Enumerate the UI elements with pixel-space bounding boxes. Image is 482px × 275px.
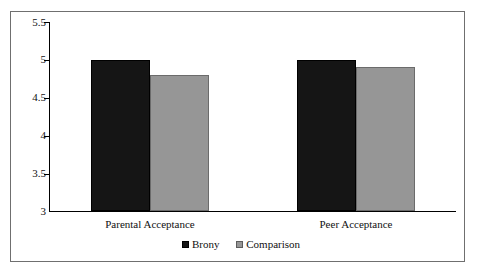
x-axis-category-label-peer-acceptance: Peer Acceptance — [256, 218, 456, 230]
y-axis-tick-label-3-5: 3.5 — [6, 168, 46, 179]
y-axis-tick-label-4: 4 — [6, 130, 46, 141]
bar-comparison-parental-acceptance — [150, 75, 209, 211]
y-axis-tick-label-5-5: 5.5 — [6, 17, 46, 28]
bar-brony-parental-acceptance — [91, 60, 150, 211]
legend-swatch-comparison-icon — [236, 241, 243, 248]
chart-legend: Brony Comparison — [0, 238, 482, 250]
y-axis-tick-label-5: 5 — [6, 54, 46, 65]
y-axis-tick-label-4-5: 4.5 — [6, 92, 46, 103]
legend-label-brony: Brony — [192, 238, 220, 250]
bar-chart-figure: 5.5 5 4.5 4 3.5 3 Parental Acceptance Pe… — [0, 0, 482, 275]
y-axis-line — [49, 22, 50, 212]
bar-comparison-peer-acceptance — [356, 67, 415, 211]
y-axis-tick-label-3: 3 — [6, 206, 46, 217]
legend-item-brony: Brony — [182, 238, 220, 250]
x-axis-line — [49, 211, 456, 212]
x-axis-category-label-parental-acceptance: Parental Acceptance — [50, 218, 250, 230]
legend-swatch-brony-icon — [182, 241, 189, 248]
bar-brony-peer-acceptance — [297, 60, 356, 211]
legend-item-comparison: Comparison — [236, 238, 300, 250]
legend-label-comparison: Comparison — [246, 238, 300, 250]
